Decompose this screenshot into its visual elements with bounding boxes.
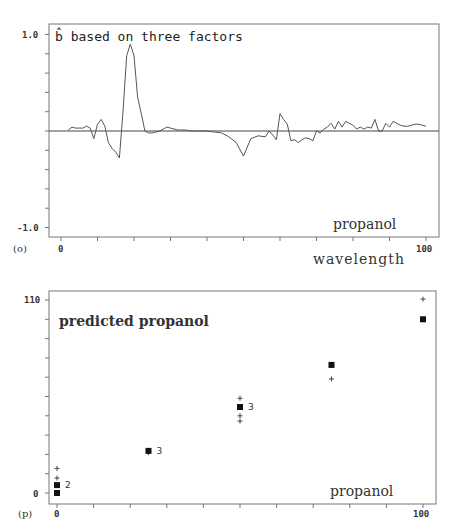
chart-title: predicted propanol [59,313,209,329]
square-marker [54,482,60,488]
x-axis-ticks [61,237,426,241]
square-marker [146,448,152,454]
b-hat-curve [68,44,426,158]
regression-vector-plot: 1.0 -1.0 0 100 (o) b̂ based on three fac… [0,0,456,280]
y-tick-min: 0 [33,489,38,499]
panel-o-regression-vector: 1.0 -1.0 0 100 (o) b̂ based on three fac… [0,0,456,280]
square-marker [420,316,426,322]
x-tick-min: 0 [58,244,63,254]
square-marker [329,362,335,368]
y-tick-max: 110 [24,295,40,305]
annotation-propanol: propanol [333,216,397,232]
count-label: 2 [65,480,71,490]
panel-label: (p) [18,508,32,519]
y-tick-max: 1.0 [22,30,38,40]
x-tick-max: 100 [413,509,429,519]
panel-p-predicted-propanol: 233 110 0 0 100 (p) predicted propanol p… [0,280,456,532]
y-axis-ticks [45,300,49,493]
square-marker [237,404,243,410]
y-axis-ticks [45,35,49,228]
panel-label: (o) [13,243,27,254]
square-marker [54,490,60,496]
count-label: 3 [248,402,254,412]
predicted-vs-actual-plot: 233 110 0 0 100 (p) predicted propanol p… [0,280,456,532]
count-label: 3 [157,446,163,456]
annotation-propanol: propanol [330,483,394,499]
x-axis-label: wavelength [313,251,405,267]
x-tick-min: 0 [54,509,59,519]
y-tick-min: -1.0 [17,223,39,233]
x-axis-ticks [57,504,423,508]
chart-title: b̂ based on three factors [55,27,243,44]
x-tick-max: 100 [416,244,432,254]
